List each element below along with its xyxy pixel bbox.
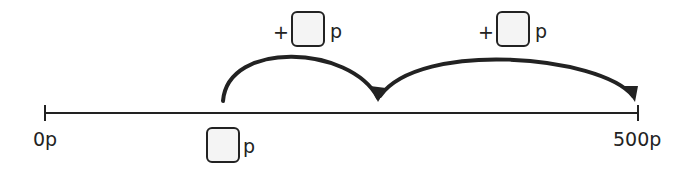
jump-2-value-box[interactable] — [496, 11, 530, 47]
end-label: 500p — [613, 130, 661, 149]
jump-1-operator: + — [273, 23, 289, 42]
number-line-diagram — [0, 0, 690, 169]
jump-1-value-box[interactable] — [291, 11, 325, 47]
start-value-box[interactable] — [206, 127, 240, 163]
jump-2-operator: + — [478, 23, 494, 42]
arrowhead-2 — [624, 86, 638, 102]
start-label: 0p — [33, 130, 57, 149]
jump-1-unit: p — [330, 22, 342, 41]
jump-arrow-1 — [223, 57, 378, 101]
start-unit: p — [243, 137, 255, 156]
jump-arrow-2 — [380, 59, 633, 96]
jump-2-unit: p — [535, 22, 547, 41]
